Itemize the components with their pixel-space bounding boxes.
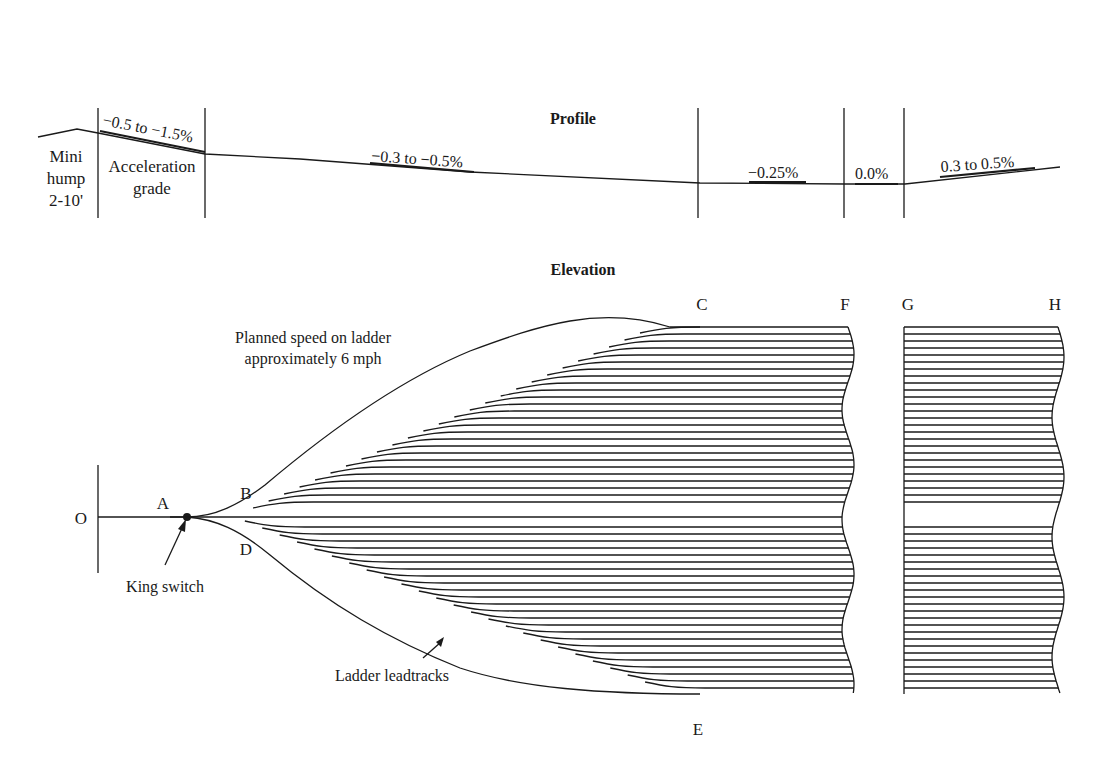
classification-track (547, 369, 852, 375)
elevation-title: Elevation (551, 261, 616, 278)
point-D: D (240, 540, 252, 559)
classification-track (245, 521, 843, 527)
hump-yard-diagram: Profile Mini hump 2-10' Acceleration gra… (0, 0, 1105, 762)
profile-section: Profile Mini hump 2-10' Acceleration gra… (38, 108, 1060, 218)
ladder-leadtracks-label: Ladder leadtracks (335, 667, 449, 684)
point-O: O (75, 509, 87, 528)
king-switch-label: King switch (126, 578, 204, 596)
accel-grade-label-1: Acceleration (109, 157, 196, 176)
classification-track (262, 528, 844, 534)
mini-hump-label-1: Mini (49, 147, 82, 166)
classification-track (297, 542, 848, 548)
classification-track (640, 327, 848, 333)
classification-track (645, 682, 854, 688)
ladder-lead-upper (187, 318, 700, 517)
mini-hump-label-3: 2-10' (49, 191, 83, 210)
classification-track (349, 563, 853, 569)
classification-track (625, 334, 851, 340)
classification-track (485, 397, 843, 403)
point-C: C (696, 295, 707, 314)
classification-track (593, 661, 851, 667)
classification-track (300, 481, 852, 487)
classification-track (269, 495, 847, 501)
classification-track (610, 668, 853, 674)
classification-track (423, 425, 844, 431)
king-switch-arrow (165, 519, 186, 565)
classification-track (541, 640, 845, 646)
classification-track (315, 474, 853, 480)
grade-body: −0.25% (748, 164, 798, 181)
classification-track (563, 362, 854, 368)
classification-track (523, 633, 843, 639)
planned-speed-note-1: Planned speed on ladder (235, 329, 392, 347)
accel-grade-label-2: grade (133, 179, 171, 198)
classification-track (419, 591, 850, 597)
classification-track (332, 556, 853, 562)
point-G: G (902, 295, 914, 314)
classification-track (401, 584, 851, 590)
point-E: E (693, 720, 703, 739)
classification-track (377, 446, 851, 452)
track-end-edge-H (1052, 327, 1064, 693)
profile-title: Profile (550, 110, 596, 127)
classification-track (506, 626, 842, 632)
classification-track (454, 411, 842, 417)
track-end-edge-F (842, 327, 854, 693)
classification-track (384, 577, 853, 583)
classification-track (594, 348, 854, 354)
classification-track (284, 488, 849, 494)
classification-track (516, 383, 847, 389)
point-H: H (1049, 295, 1061, 314)
classification-track (367, 570, 854, 576)
classification-track (470, 404, 843, 410)
classification-track (558, 647, 847, 653)
classification-track (331, 467, 854, 473)
point-F: F (840, 295, 849, 314)
ladder-leadtracks-arrow (423, 637, 444, 658)
classification-track (501, 390, 846, 396)
classification-track (578, 355, 854, 361)
classification-track (439, 418, 843, 424)
classification-tracks-gh (904, 327, 1064, 688)
classification-track (436, 598, 847, 604)
classification-track (532, 376, 850, 382)
classification-track (314, 549, 850, 555)
classification-track (253, 502, 845, 508)
classification-track (361, 453, 852, 459)
classification-track (392, 439, 848, 445)
classification-track (471, 612, 843, 618)
classification-track (488, 619, 842, 625)
classification-track (575, 654, 849, 660)
classification-track (628, 675, 854, 681)
classification-track (408, 432, 846, 438)
figure-caption-clipped (36, 754, 40, 762)
classification-tracks-main (170, 327, 854, 688)
grade-ladder: −0.3 to −0.5% (371, 147, 464, 170)
point-A: A (157, 494, 170, 513)
classification-track (346, 460, 854, 466)
classification-track (280, 535, 846, 541)
classification-track (609, 341, 852, 347)
grade-flat: 0.0% (855, 165, 888, 182)
mini-hump-label-2: hump (47, 169, 86, 188)
elevation-section: Elevation O A B D C F G H E Planned spee… (75, 261, 1064, 739)
planned-speed-note-2: approximately 6 mph (245, 350, 382, 368)
classification-track (454, 605, 845, 611)
